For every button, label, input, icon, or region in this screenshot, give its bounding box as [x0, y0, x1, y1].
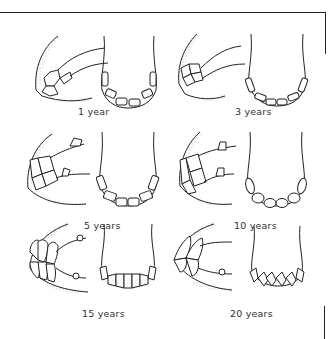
panel-15-years: 15 years [26, 222, 176, 322]
front-incisors-illustration [248, 222, 332, 322]
panel-5-years: 5 years [24, 128, 174, 228]
age-caption: 3 years [235, 106, 272, 117]
age-caption: 1 year [78, 106, 109, 117]
panel-3-years: 3 years [173, 28, 323, 128]
panel-20-years: 20 years [172, 222, 322, 322]
age-caption: 20 years [230, 308, 273, 319]
age-caption: 15 years [82, 308, 125, 319]
panel-10-years: 10 years [176, 128, 326, 228]
front-incisors-illustration [244, 128, 332, 228]
frame-top-line [0, 12, 326, 13]
panel-1-year: 1 year [30, 28, 180, 128]
